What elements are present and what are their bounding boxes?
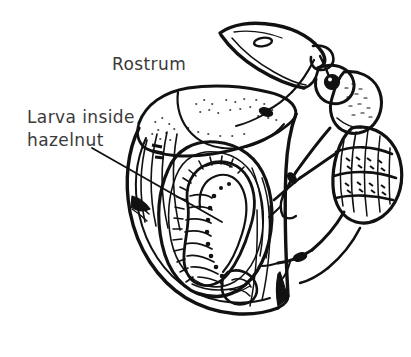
- label-larva-line-2: hazelnut: [27, 129, 135, 152]
- label-rostrum: Rostrum: [112, 53, 186, 76]
- figure-background: [0, 0, 411, 357]
- figure-canvas: Rostrum Larva inside hazelnut: [0, 0, 411, 357]
- weevil-hazelnut-illustration: [0, 0, 411, 357]
- label-larva-line-1: Larva inside: [27, 106, 135, 129]
- label-larva-inside-hazelnut: Larva inside hazelnut: [27, 106, 135, 152]
